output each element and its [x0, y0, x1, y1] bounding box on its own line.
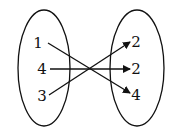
- mapping-diagram: 1 4 3 2 2 4: [0, 0, 173, 133]
- range-value: 2: [131, 60, 141, 78]
- domain-value: 3: [37, 87, 47, 105]
- range-value: 2: [131, 33, 141, 51]
- domain-value: 1: [33, 34, 43, 52]
- domain-value: 4: [37, 60, 47, 78]
- range-value: 4: [131, 86, 141, 104]
